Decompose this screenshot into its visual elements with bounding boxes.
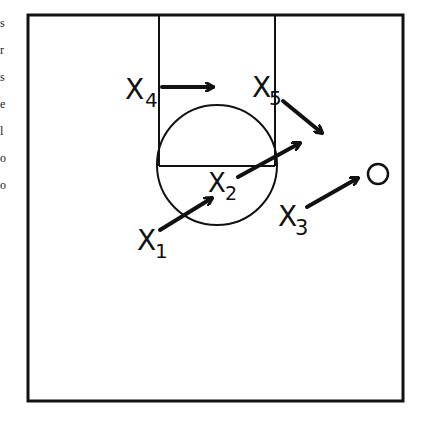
arrow-x5	[283, 101, 322, 133]
margin-fragment: s	[0, 10, 10, 37]
offense-marker-o	[368, 164, 388, 184]
play-diagram: s r s e l o o X 4	[0, 0, 424, 422]
player-number: 1	[155, 239, 168, 263]
margin-fragment: r	[0, 37, 10, 64]
cropped-margin-text: s r s e l o o	[0, 10, 10, 199]
margin-fragment: s	[0, 64, 10, 91]
player-x4: X 4	[125, 73, 158, 112]
player-x3: X 3	[278, 200, 308, 240]
court-svg: X 4 X 5 X 2 X 1 X 3	[0, 0, 424, 422]
player-label: X	[208, 168, 226, 198]
player-number: 4	[145, 88, 158, 112]
player-label: X	[125, 73, 144, 106]
player-number: 3	[295, 216, 308, 240]
player-label: X	[137, 224, 156, 257]
court-boundary	[28, 15, 403, 401]
margin-fragment: e	[0, 91, 10, 118]
margin-fragment: l	[0, 118, 10, 145]
arrow-x1	[160, 198, 212, 230]
player-number: 2	[225, 182, 237, 204]
margin-fragment: o	[0, 145, 10, 172]
player-number: 5	[269, 86, 282, 110]
margin-fragment: o	[0, 172, 10, 199]
arrow-x2	[238, 143, 300, 177]
arrow-x3	[307, 178, 358, 207]
player-x5: X 5	[252, 71, 282, 110]
